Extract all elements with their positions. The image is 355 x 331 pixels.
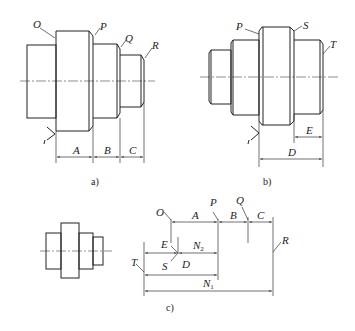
label-c-R: R [281, 234, 289, 246]
label-c-B: B [230, 209, 237, 221]
label-c-Q: Q [236, 194, 244, 206]
label-a-A: A [72, 144, 80, 156]
caption-b: b) [263, 176, 271, 188]
label-c-S: S [162, 260, 168, 272]
label-a-Q: Q [125, 32, 133, 44]
label-b-D: D [287, 146, 296, 158]
part-c-simplified-shaft [40, 223, 112, 278]
label-c-C: C [257, 209, 265, 221]
part-c-dimension-chain: A B C O P Q R E T S D N2 N1 c) [131, 194, 289, 314]
label-a-P: P [99, 20, 107, 32]
caption-c: c) [166, 302, 174, 314]
label-a-R: R [151, 39, 159, 51]
label-a-O: O [33, 18, 41, 30]
caption-a: a) [91, 176, 99, 188]
shaft-b-collar [259, 27, 294, 125]
dimension-chain-diagram: O P Q R A B C a) [0, 0, 355, 331]
label-a-B: B [104, 144, 111, 156]
label-c-T: T [131, 256, 138, 268]
label-b-S: S [303, 19, 309, 31]
shaft-b-second-section [231, 40, 259, 115]
surface-finish-symbol-a [44, 127, 55, 144]
label-a-C: C [129, 144, 137, 156]
label-c-P: P [209, 196, 217, 208]
label-b-P: P [235, 20, 243, 32]
label-c-O: O [156, 206, 164, 218]
label-c-N1: N1 [202, 277, 214, 291]
label-c-E: E [160, 238, 168, 250]
label-b-E: E [305, 124, 313, 136]
part-a-shaft-drawing: O P Q R A B C a) [20, 18, 159, 188]
label-c-N2: N2 [192, 239, 204, 253]
surface-finish-symbol-b [248, 126, 259, 144]
label-b-T: T [330, 38, 337, 50]
label-c-A: A [191, 209, 199, 221]
label-c-D: D [181, 258, 190, 270]
part-b-shaft-drawing: P S T E D b) [200, 19, 340, 188]
shaft-a-left-section [27, 45, 56, 118]
